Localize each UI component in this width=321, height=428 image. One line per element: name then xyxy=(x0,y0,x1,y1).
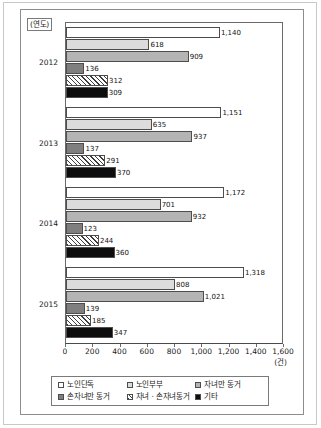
bar-value-label: 309 xyxy=(109,89,122,97)
legend-swatch-icon xyxy=(195,382,201,388)
bar-row: 309 xyxy=(66,87,282,98)
bar-value-label: 370 xyxy=(117,169,130,177)
legend-item-5[interactable]: 기타 xyxy=(195,392,264,402)
bar-2014-series-2[interactable]: 932 xyxy=(66,211,192,222)
bar-2015-series-2[interactable]: 1,021 xyxy=(66,291,204,302)
bar-2015-series-5[interactable]: 347 xyxy=(66,327,113,338)
bar-2015-series-1[interactable]: 808 xyxy=(66,279,175,290)
y-axis-label-2012: 2012 xyxy=(39,58,58,67)
legend-label: 자녀 · 손자녀동거 xyxy=(136,392,190,402)
bar-row: 137 xyxy=(66,143,282,154)
bar-row: 347 xyxy=(66,327,282,338)
x-axis-label-200: 200 xyxy=(85,347,99,357)
bar-2012-series-5[interactable]: 309 xyxy=(66,87,108,98)
x-axis-label-600: 600 xyxy=(140,347,154,357)
bar-row: 808 xyxy=(66,279,282,290)
bar-group-2014: 1,172701932123244360 xyxy=(66,183,282,263)
bar-row: 244 xyxy=(66,235,282,246)
x-axis-tick-labels: 02004006008001,0001,2001,4001,600 xyxy=(65,347,283,359)
bar-value-label: 635 xyxy=(153,121,166,129)
bar-value-label: 909 xyxy=(190,53,203,61)
bar-2013-series-5[interactable]: 370 xyxy=(66,167,116,178)
y-axis-label-2013: 2013 xyxy=(39,138,58,147)
legend-item-1[interactable]: 노인부부 xyxy=(127,380,196,390)
bar-row: 635 xyxy=(66,119,282,130)
legend-item-0[interactable]: 노인단독 xyxy=(58,380,127,390)
bars: 1,151635937137291370 xyxy=(66,103,282,183)
bar-value-label: 291 xyxy=(106,157,119,165)
bar-2014-series-4[interactable]: 244 xyxy=(66,235,99,246)
legend-label: 손자녀만 동거 xyxy=(67,392,110,402)
legend-swatch-icon xyxy=(195,394,201,400)
bars: 1,172701932123244360 xyxy=(66,183,282,263)
bar-row: 185 xyxy=(66,315,282,326)
bar-2013-series-1[interactable]: 635 xyxy=(66,119,152,130)
legend-item-2[interactable]: 자녀만 동거 xyxy=(195,380,264,390)
bars: 1,140618909136312309 xyxy=(66,23,282,103)
legend-label: 노인단독 xyxy=(67,380,94,390)
bar-value-label: 1,021 xyxy=(205,293,225,301)
bar-2012-series-0[interactable]: 1,140 xyxy=(66,27,220,38)
bar-row: 932 xyxy=(66,211,282,222)
x-axis-label-0: 0 xyxy=(63,347,68,357)
bar-row: 1,172 xyxy=(66,187,282,198)
bar-value-label: 1,318 xyxy=(245,269,265,277)
bar-value-label: 137 xyxy=(85,145,98,153)
chart-legend: 노인단독노인부부자녀만 동거손자녀만 동거자녀 · 손자녀동거기타 xyxy=(51,376,269,406)
bar-row: 1,140 xyxy=(66,27,282,38)
bar-2014-series-5[interactable]: 360 xyxy=(66,247,115,258)
y-axis-tick-labels: 2012201320142015 xyxy=(21,22,63,344)
bar-2015-series-4[interactable]: 185 xyxy=(66,315,91,326)
bar-2014-series-0[interactable]: 1,172 xyxy=(66,187,224,198)
x-axis-label-1400: 1,400 xyxy=(245,347,266,357)
x-axis-label-1200: 1,200 xyxy=(218,347,239,357)
x-axis-label-1600: 1,600 xyxy=(272,347,293,357)
bar-2013-series-3[interactable]: 137 xyxy=(66,143,84,154)
legend-item-4[interactable]: 자녀 · 손자녀동거 xyxy=(127,392,196,402)
bar-value-label: 1,151 xyxy=(222,109,242,117)
bar-2013-series-2[interactable]: 937 xyxy=(66,131,192,142)
bar-row: 618 xyxy=(66,39,282,50)
bar-2014-series-3[interactable]: 123 xyxy=(66,223,83,234)
legend-label: 기타 xyxy=(204,392,218,402)
bar-row: 370 xyxy=(66,167,282,178)
legend-item-3[interactable]: 손자녀만 동거 xyxy=(58,392,127,402)
bar-value-label: 347 xyxy=(114,329,127,337)
x-axis-unit-label: (건) xyxy=(274,358,287,368)
legend-label: 자녀만 동거 xyxy=(204,380,240,390)
bar-2014-series-1[interactable]: 701 xyxy=(66,199,161,210)
bar-row: 1,021 xyxy=(66,291,282,302)
legend-swatch-icon xyxy=(58,382,64,388)
bar-row: 937 xyxy=(66,131,282,142)
bar-2012-series-2[interactable]: 909 xyxy=(66,51,189,62)
bar-group-2015: 1,3188081,021139185347 xyxy=(66,263,282,343)
bar-value-label: 360 xyxy=(116,249,129,257)
x-axis-label-400: 400 xyxy=(112,347,126,357)
bar-value-label: 808 xyxy=(176,281,189,289)
bars: 1,3188081,021139185347 xyxy=(66,263,282,343)
legend-swatch-icon xyxy=(58,394,64,400)
chart-container: (연도) 2012201320142015 1,1406189091363123… xyxy=(20,9,304,415)
bar-value-label: 1,172 xyxy=(225,189,245,197)
y-axis-label-2015: 2015 xyxy=(39,299,58,308)
bar-row: 312 xyxy=(66,75,282,86)
bar-row: 701 xyxy=(66,199,282,210)
bar-group-2012: 1,140618909136312309 xyxy=(66,23,282,103)
bar-value-label: 136 xyxy=(85,65,98,73)
bar-2012-series-1[interactable]: 618 xyxy=(66,39,149,50)
bar-row: 139 xyxy=(66,303,282,314)
bar-2013-series-4[interactable]: 291 xyxy=(66,155,105,166)
legend-swatch-icon xyxy=(127,382,133,388)
bar-groups: 1,1406189091363123091,151635937137291370… xyxy=(66,23,282,343)
legend-swatch-icon xyxy=(127,394,133,400)
bar-row: 360 xyxy=(66,247,282,258)
bar-2013-series-0[interactable]: 1,151 xyxy=(66,107,221,118)
bar-value-label: 244 xyxy=(100,237,113,245)
bar-2015-series-0[interactable]: 1,318 xyxy=(66,267,244,278)
bar-2012-series-3[interactable]: 136 xyxy=(66,63,84,74)
bar-value-label: 185 xyxy=(92,317,105,325)
bar-2012-series-4[interactable]: 312 xyxy=(66,75,108,86)
bar-2015-series-3[interactable]: 139 xyxy=(66,303,85,314)
x-axis-label-1000: 1,000 xyxy=(191,347,212,357)
bar-value-label: 123 xyxy=(84,225,97,233)
